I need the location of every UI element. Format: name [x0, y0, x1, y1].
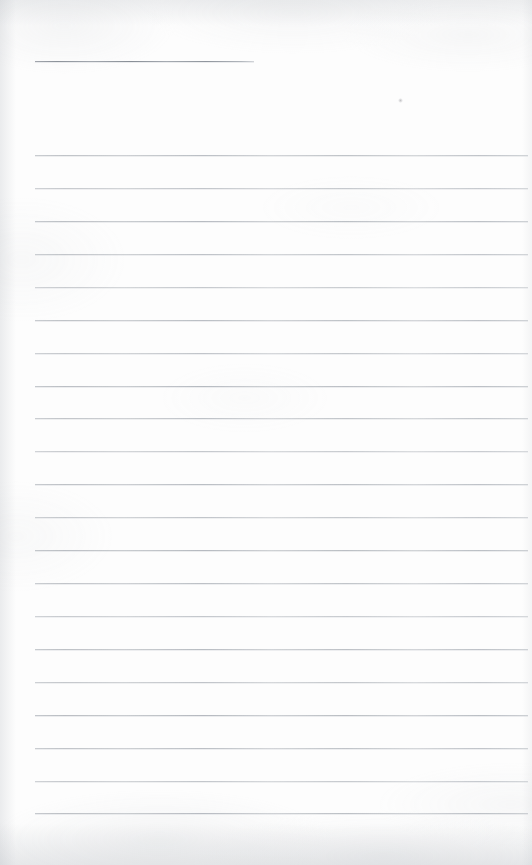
paper-background: [0, 0, 532, 865]
scanned-page: [0, 0, 532, 865]
